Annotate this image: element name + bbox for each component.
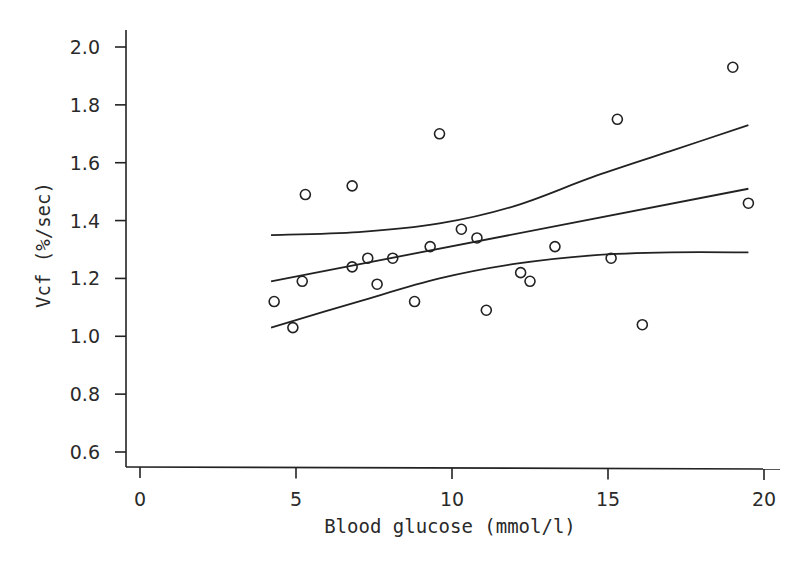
x-axis-title: Blood glucose (mmol/l) <box>324 515 576 537</box>
data-point <box>637 320 647 330</box>
y-axis-title: Vcf (%/sec) <box>32 182 54 308</box>
y-tick-label: 1.6 <box>70 152 100 174</box>
x-tick-label: 10 <box>440 488 464 510</box>
x-axis-line <box>126 467 780 469</box>
y-tick-label: 1.2 <box>70 267 100 289</box>
data-point <box>743 198 753 208</box>
scatter-chart: 0.60.81.01.21.41.61.82.0 05101520 Blood … <box>0 0 804 563</box>
x-ticks: 05101520 <box>134 467 776 510</box>
data-point <box>347 181 357 191</box>
data-point <box>288 323 298 333</box>
data-point <box>435 129 445 139</box>
data-point <box>410 297 420 307</box>
data-point <box>728 62 738 72</box>
data-point <box>372 279 382 289</box>
axes <box>126 30 780 469</box>
data-points <box>269 62 753 332</box>
data-point <box>481 305 491 315</box>
y-ticks: 0.60.81.01.21.41.61.82.0 <box>70 36 126 463</box>
y-tick-label: 0.6 <box>70 441 100 463</box>
regression-line <box>271 189 748 282</box>
x-tick-label: 20 <box>752 488 776 510</box>
data-point <box>550 242 560 252</box>
data-point <box>269 297 279 307</box>
y-tick-label: 2.0 <box>70 36 100 58</box>
y-tick-label: 1.8 <box>70 94 100 116</box>
data-point <box>525 276 535 286</box>
data-point <box>297 276 307 286</box>
y-tick-label: 0.8 <box>70 383 100 405</box>
x-tick-label: 5 <box>290 488 302 510</box>
y-tick-label: 1.4 <box>70 210 100 232</box>
upper-confidence-curve <box>271 125 748 235</box>
x-tick-label: 0 <box>134 488 146 510</box>
data-point <box>300 190 310 200</box>
y-tick-label: 1.0 <box>70 325 100 347</box>
x-tick-label: 15 <box>596 488 620 510</box>
data-point <box>612 114 622 124</box>
data-point <box>516 268 526 278</box>
lower-confidence-curve <box>271 252 748 327</box>
data-point <box>456 224 466 234</box>
fit-curves <box>271 125 748 328</box>
